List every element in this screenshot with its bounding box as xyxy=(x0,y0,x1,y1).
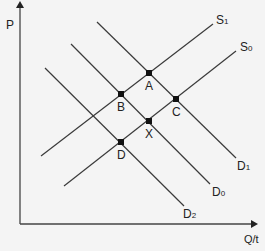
supply-demand-diagram xyxy=(0,0,265,251)
equilibrium-point-c xyxy=(173,96,179,102)
equilibrium-point-x xyxy=(146,118,152,124)
point-label-a: A xyxy=(145,80,153,92)
equilibrium-point-a xyxy=(146,70,152,76)
point-label-d: D xyxy=(117,149,126,161)
curve-label-s1: S1 xyxy=(216,14,228,28)
x-axis-arrow-icon xyxy=(251,220,258,228)
equilibrium-point-b xyxy=(118,91,124,97)
equilibrium-point-d xyxy=(118,139,124,145)
curve-label-d1: D1 xyxy=(237,160,250,174)
point-label-b: B xyxy=(117,101,125,113)
point-label-x: X xyxy=(145,128,153,140)
point-label-c: C xyxy=(172,106,181,118)
curve-label-d0: D0 xyxy=(212,186,225,200)
curve-label-s0: S0 xyxy=(240,41,252,55)
curve-label-d2: D2 xyxy=(183,208,196,222)
y-axis-arrow-icon xyxy=(16,1,24,8)
y-axis-label: P xyxy=(6,19,14,31)
demand-curve-d1 xyxy=(97,22,236,158)
x-axis-label: Q/t xyxy=(244,233,259,245)
